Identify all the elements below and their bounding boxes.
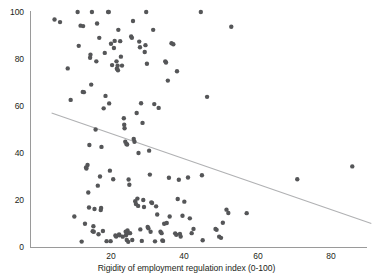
- data-point: [161, 239, 165, 243]
- data-point: [200, 173, 204, 177]
- scatter-plot-figure: 100 80 60 40 20 0 20 40 60 80 Rigidity o…: [0, 0, 373, 280]
- data-point: [88, 53, 92, 57]
- chart-canvas: [0, 0, 373, 280]
- data-point: [92, 207, 96, 211]
- data-point: [75, 10, 79, 14]
- data-point: [94, 59, 98, 63]
- data-point: [226, 211, 230, 215]
- data-point: [86, 190, 90, 194]
- data-point: [82, 90, 86, 94]
- data-point: [175, 69, 179, 73]
- data-point: [151, 28, 155, 32]
- data-point: [87, 205, 91, 209]
- data-point: [148, 172, 152, 176]
- data-point: [156, 106, 160, 110]
- data-point: [153, 239, 157, 243]
- data-point: [87, 143, 91, 147]
- data-point: [167, 214, 171, 218]
- data-point: [159, 231, 163, 235]
- data-point: [178, 234, 182, 238]
- data-point: [119, 54, 123, 58]
- data-point: [131, 19, 135, 23]
- data-point: [101, 229, 105, 233]
- data-point: [96, 232, 100, 236]
- data-point: [92, 230, 96, 234]
- data-point: [103, 94, 107, 98]
- data-point: [115, 64, 119, 68]
- data-points-group: [52, 10, 354, 244]
- data-point: [104, 239, 108, 243]
- data-point: [66, 66, 70, 70]
- data-point: [125, 142, 129, 146]
- data-point: [136, 204, 140, 208]
- data-point: [58, 20, 62, 24]
- data-point: [200, 238, 204, 242]
- data-point: [147, 148, 151, 152]
- data-point: [77, 44, 81, 48]
- data-point: [95, 21, 99, 25]
- data-point: [52, 17, 56, 21]
- data-point: [93, 127, 97, 131]
- data-point: [97, 36, 101, 40]
- data-point: [177, 178, 181, 182]
- data-point: [112, 46, 116, 50]
- data-point: [85, 163, 89, 167]
- data-point: [155, 212, 159, 216]
- data-point: [79, 239, 83, 243]
- data-point: [188, 216, 192, 220]
- data-point: [118, 39, 122, 43]
- data-point: [130, 36, 134, 40]
- data-point: [111, 177, 115, 181]
- data-point: [91, 224, 95, 228]
- data-point: [101, 106, 105, 110]
- data-point: [138, 45, 142, 49]
- data-point: [148, 230, 152, 234]
- data-point: [127, 183, 131, 187]
- data-point: [126, 177, 130, 181]
- data-point: [143, 43, 147, 47]
- data-point: [90, 10, 94, 14]
- data-point: [174, 233, 178, 237]
- data-point: [214, 228, 218, 232]
- data-point: [81, 24, 85, 28]
- data-point: [114, 59, 118, 63]
- data-point: [122, 116, 126, 120]
- data-point: [143, 50, 147, 54]
- data-point: [107, 10, 111, 14]
- data-point: [99, 145, 103, 149]
- data-point: [99, 206, 103, 210]
- data-point: [132, 140, 136, 144]
- data-point: [205, 95, 209, 99]
- data-point: [189, 231, 193, 235]
- data-point: [350, 164, 354, 168]
- data-point: [138, 227, 142, 231]
- data-point: [135, 196, 139, 200]
- data-point: [140, 239, 144, 243]
- data-point: [116, 28, 120, 32]
- data-point: [110, 63, 114, 67]
- data-point: [167, 175, 171, 179]
- data-point: [128, 231, 132, 235]
- data-point: [126, 240, 130, 244]
- data-point: [108, 239, 112, 243]
- data-point: [144, 10, 148, 14]
- data-point: [68, 98, 72, 102]
- data-point: [109, 42, 113, 46]
- data-point: [98, 174, 102, 178]
- data-point: [182, 199, 186, 203]
- data-point: [176, 197, 180, 201]
- data-point: [136, 151, 140, 155]
- data-point: [116, 68, 120, 72]
- data-point: [83, 222, 87, 226]
- data-point: [186, 175, 190, 179]
- data-point: [120, 63, 124, 67]
- data-point: [150, 201, 154, 205]
- data-point: [154, 204, 158, 208]
- data-point: [145, 62, 149, 66]
- data-point: [180, 214, 184, 218]
- data-point: [165, 221, 169, 225]
- data-point: [112, 39, 116, 43]
- data-point: [139, 101, 143, 105]
- data-point: [244, 211, 248, 215]
- data-point: [134, 111, 138, 115]
